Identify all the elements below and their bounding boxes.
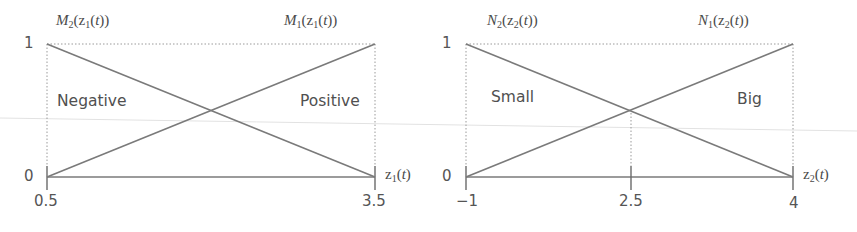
mf-label-m1: M1(z1(t)): [284, 12, 337, 30]
left-panel-plot: [47, 44, 375, 190]
y-tick-0: 0: [442, 167, 452, 185]
x-tick-label-0.5: 0.5: [34, 192, 58, 210]
x-axis-label-z1: z1(t): [385, 166, 411, 184]
scan-artifact-line: [0, 118, 857, 131]
x-tick-label-4: 4: [789, 194, 799, 212]
x-tick-label-2.5: 2.5: [619, 192, 643, 210]
region-label-small: Small: [491, 88, 534, 106]
region-label-positive: Positive: [300, 92, 360, 110]
y-tick-1: 1: [24, 34, 34, 52]
x-axis-label-z2: z2(t): [803, 166, 829, 184]
region-label-big: Big: [737, 90, 762, 108]
x-tick-label-neg1: −1: [456, 192, 478, 210]
mf-label-m2: M2(z1(t)): [56, 12, 109, 30]
x-tick-label-3.5: 3.5: [362, 192, 386, 210]
y-tick-1: 1: [442, 34, 452, 52]
right-panel-plot: [466, 44, 793, 190]
membership-functions-figure: [0, 0, 857, 232]
mf-label-n2: N2(z2(t)): [487, 12, 538, 30]
region-label-negative: Negative: [57, 92, 127, 110]
mf-label-n1: N1(z2(t)): [698, 12, 749, 30]
y-tick-0: 0: [24, 167, 34, 185]
